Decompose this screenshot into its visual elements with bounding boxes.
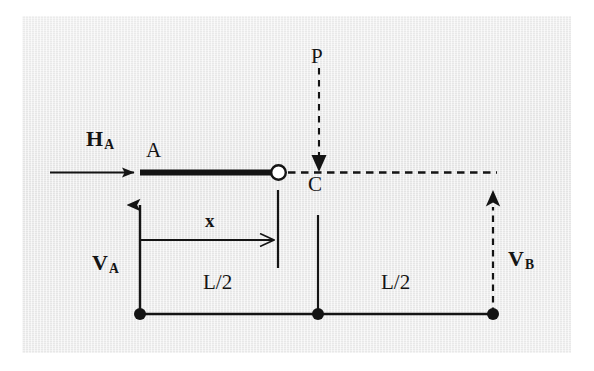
beam-diagram-canvas xyxy=(0,0,594,371)
label-point-c: C xyxy=(308,174,322,195)
label-load-p: P xyxy=(311,46,323,67)
v-b-reaction-arrow-head xyxy=(486,190,500,207)
internal-hinge-circle xyxy=(271,165,286,180)
p-load-arrow-head xyxy=(312,155,327,172)
node-dot-a xyxy=(134,308,146,320)
label-v-b: VB xyxy=(508,248,533,270)
label-h-a: HA xyxy=(86,128,113,150)
label-dimension-left-half: L/2 xyxy=(203,272,232,293)
label-v-a: VA xyxy=(92,252,118,274)
label-dimension-x: x xyxy=(205,211,215,230)
node-dot-b xyxy=(487,308,499,320)
figure-root: HA A C P VA VB x L/2 L/2 xyxy=(0,0,594,371)
label-point-a: A xyxy=(146,140,161,161)
label-dimension-right-half: L/2 xyxy=(381,272,410,293)
node-dot-c xyxy=(312,308,324,320)
